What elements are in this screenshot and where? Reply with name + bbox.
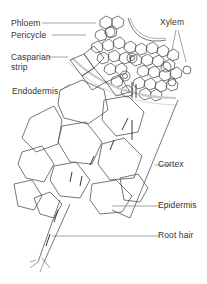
label-xylem: Xylem <box>160 18 184 27</box>
label-epidermis: Epidermis <box>158 201 197 210</box>
label-casparian-strip-1: Casparian <box>11 53 51 62</box>
root-section-diagram <box>0 0 207 284</box>
label-pericycle: Pericycle <box>11 31 46 40</box>
root-hair <box>38 200 70 262</box>
label-root-hair: Root hair <box>158 231 193 240</box>
stele-cells <box>91 16 182 101</box>
label-cortex: Cortex <box>158 160 184 169</box>
cortex-cells <box>14 80 148 218</box>
label-endodermis: Endodermis <box>12 87 58 96</box>
label-casparian-strip-2: strip <box>11 63 28 72</box>
label-phloem: Phloem <box>11 19 40 28</box>
